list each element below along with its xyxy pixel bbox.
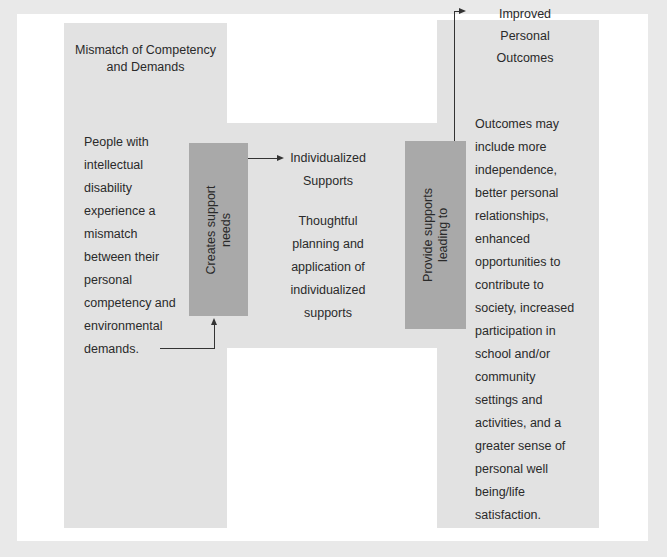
left-body-line: demands. bbox=[84, 338, 176, 361]
left-body-line: between their bbox=[84, 246, 176, 269]
left-body: People with intellectual disability expe… bbox=[84, 131, 176, 361]
middle-body: Thoughtful planning and application of i… bbox=[276, 210, 380, 325]
middle-body-line: supports bbox=[276, 302, 380, 325]
left-body-line: mismatch bbox=[84, 223, 176, 246]
right-body-line: better personal bbox=[475, 182, 574, 205]
right-body-line: personal well bbox=[475, 458, 574, 481]
middle-body-line: Thoughtful bbox=[276, 210, 380, 233]
right-body-line: activities, and a bbox=[475, 412, 574, 435]
connector-line bbox=[454, 11, 455, 141]
right-title-line: Outcomes bbox=[475, 47, 575, 69]
provide-supports-box: Provide supports leading to bbox=[405, 141, 466, 329]
right-body-line: relationships, bbox=[475, 205, 574, 228]
left-body-line: People with bbox=[84, 131, 176, 154]
left-body-line: disability bbox=[84, 177, 176, 200]
right-body-line: contribute to bbox=[475, 274, 574, 297]
right-body-line: being/life bbox=[475, 481, 574, 504]
middle-title-line1: Individualized bbox=[276, 147, 380, 170]
box2-line1: Provide supports bbox=[421, 188, 436, 282]
box1-label: Creates support needs bbox=[204, 185, 234, 274]
left-body-line: experience a bbox=[84, 200, 176, 223]
left-body-line: personal bbox=[84, 269, 176, 292]
middle-title-line2: Supports bbox=[276, 170, 380, 193]
box1-line2: needs bbox=[219, 185, 234, 274]
left-body-line: environmental bbox=[84, 315, 176, 338]
right-body-line: independence, bbox=[475, 159, 574, 182]
middle-body-line: planning and bbox=[276, 233, 380, 256]
left-title-line1: Mismatch of Competency bbox=[64, 42, 227, 59]
right-body-line: community bbox=[475, 366, 574, 389]
left-body-line: intellectual bbox=[84, 154, 176, 177]
connector-line bbox=[248, 158, 278, 159]
right-body: Outcomes may include more independence, … bbox=[475, 113, 574, 527]
right-body-line: opportunities to bbox=[475, 251, 574, 274]
creates-support-needs-box: Creates support needs bbox=[189, 143, 248, 316]
arrow-up-icon bbox=[211, 318, 217, 325]
middle-title: Individualized Supports bbox=[276, 147, 380, 193]
right-title: Improved Personal Outcomes bbox=[475, 0, 575, 69]
connector-line bbox=[214, 323, 215, 349]
box2-label: Provide supports leading to bbox=[421, 188, 451, 282]
right-body-line: Outcomes may bbox=[475, 113, 574, 136]
right-body-line: society, increased bbox=[475, 297, 574, 320]
right-title-line: Improved bbox=[475, 3, 575, 25]
connector-line bbox=[160, 348, 214, 349]
right-body-line: greater sense of bbox=[475, 435, 574, 458]
right-body-line: include more bbox=[475, 136, 574, 159]
box1-line1: Creates support bbox=[204, 185, 219, 274]
arrow-right-icon bbox=[459, 8, 466, 14]
right-body-line: settings and bbox=[475, 389, 574, 412]
middle-body-line: application of bbox=[276, 256, 380, 279]
left-title: Mismatch of Competency and Demands bbox=[64, 42, 227, 76]
right-body-line: participation in bbox=[475, 320, 574, 343]
right-body-line: school and/or bbox=[475, 343, 574, 366]
left-title-line2: and Demands bbox=[64, 59, 227, 76]
left-body-line: competency and bbox=[84, 292, 176, 315]
right-body-line: enhanced bbox=[475, 228, 574, 251]
right-title-line: Personal bbox=[475, 25, 575, 47]
middle-body-line: individualized bbox=[276, 279, 380, 302]
right-body-line: satisfaction. bbox=[475, 504, 574, 527]
box2-line2: leading to bbox=[436, 188, 451, 282]
